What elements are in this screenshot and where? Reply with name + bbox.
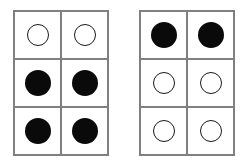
open-circle-icon: [74, 24, 96, 46]
grid-cell: [188, 108, 233, 154]
open-circle-icon: [200, 72, 222, 94]
grid-cell: [141, 60, 186, 106]
grid-cell: [141, 12, 186, 58]
grid-cell: [15, 108, 60, 154]
filled-circle-icon: [72, 118, 98, 144]
filled-circle-icon: [198, 22, 224, 48]
filled-circle-icon: [25, 70, 51, 96]
filled-circle-icon: [72, 70, 98, 96]
figure-canvas: [0, 0, 241, 168]
grid-cell: [62, 108, 107, 154]
grid-cell: [188, 12, 233, 58]
grid-cell: [62, 60, 107, 106]
grid-cell: [141, 108, 186, 154]
left-grid: [13, 10, 109, 156]
filled-circle-icon: [25, 118, 51, 144]
open-circle-icon: [153, 72, 175, 94]
grid-cell: [62, 12, 107, 58]
open-circle-icon: [27, 24, 49, 46]
grid-cell: [15, 12, 60, 58]
open-circle-icon: [200, 120, 222, 142]
filled-circle-icon: [151, 22, 177, 48]
right-grid: [139, 10, 235, 156]
grid-cell: [15, 60, 60, 106]
grid-cell: [188, 60, 233, 106]
open-circle-icon: [153, 120, 175, 142]
